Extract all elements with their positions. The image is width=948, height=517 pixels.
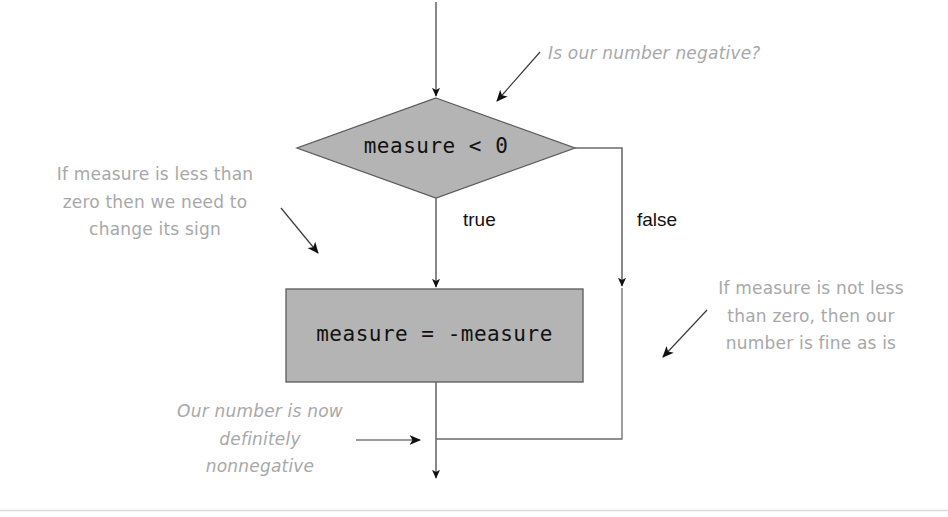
flowchart-canvas: measure < 0 measure = -measure true fals… bbox=[0, 0, 948, 517]
edge-label-true: true bbox=[463, 209, 496, 231]
annotation-question: Is our number negative? bbox=[548, 40, 798, 68]
edge-label-false: false bbox=[637, 209, 677, 231]
annotation-arrow-question bbox=[497, 52, 540, 101]
annotation-merge: Our number is now definitely nonnegative bbox=[160, 398, 360, 481]
decision-node-label: measure < 0 bbox=[297, 134, 575, 158]
annotation-false-branch: If measure is not less than zero, then o… bbox=[684, 275, 938, 358]
process-node-label: measure = -measure bbox=[286, 322, 583, 346]
edge-false bbox=[575, 148, 622, 286]
annotation-arrow-true-branch bbox=[281, 208, 318, 253]
flowchart-graphics bbox=[0, 0, 948, 517]
annotation-true-branch: If measure is less than zero then we nee… bbox=[30, 161, 280, 244]
